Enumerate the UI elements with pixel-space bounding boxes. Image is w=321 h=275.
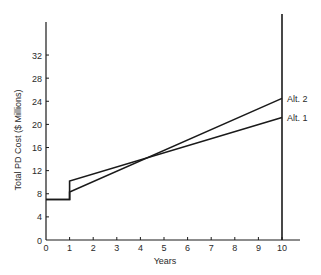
x-tick-label: 8: [232, 243, 237, 253]
x-tick-label: 10: [277, 243, 287, 253]
x-tick-label: 7: [209, 243, 214, 253]
x-axis-title: Years: [154, 256, 177, 266]
series-label: Alt. 1: [287, 113, 308, 123]
y-axis-title: Total PD Cost ($ Millions): [13, 89, 23, 190]
x-tick-label: 0: [43, 243, 48, 253]
y-tick-label: 4: [37, 212, 42, 222]
y-tick-label: 24: [32, 97, 42, 107]
x-tick-label: 5: [161, 243, 166, 253]
y-tick-label: 0: [37, 236, 42, 246]
x-tick-label: 9: [256, 243, 261, 253]
x-tick-label: 1: [67, 243, 72, 253]
y-tick-label: 8: [37, 189, 42, 199]
y-tick-label: 16: [32, 143, 42, 153]
y-tick-label: 28: [32, 74, 42, 84]
x-tick-label: 2: [91, 243, 96, 253]
x-tick-label: 3: [114, 243, 119, 253]
y-tick-label: 20: [32, 120, 42, 130]
line-chart: 048121620242832012345678910Alt. 1Alt. 2Y…: [0, 0, 321, 275]
series-line-alt-2: [46, 98, 282, 199]
y-tick-label: 12: [32, 166, 42, 176]
y-tick-label: 32: [32, 51, 42, 61]
x-tick-label: 6: [185, 243, 190, 253]
series-label: Alt. 2: [287, 94, 308, 104]
x-tick-label: 4: [138, 243, 143, 253]
